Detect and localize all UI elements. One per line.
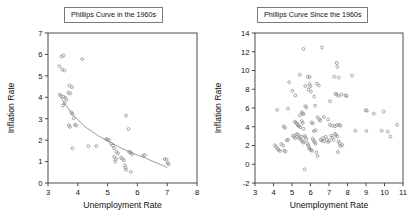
data-point <box>113 147 116 150</box>
data-point <box>303 168 306 171</box>
phillips-curve-figure: Phillips Curve in the 1960s 345678012345… <box>0 0 418 223</box>
data-point <box>81 58 84 61</box>
x-tick-label: 5 <box>105 188 109 197</box>
x-tick-label: 11 <box>399 188 407 197</box>
data-point <box>298 114 301 117</box>
y-axis-title: Inflation Rate <box>213 82 223 133</box>
data-point <box>389 135 392 138</box>
data-point <box>315 151 318 154</box>
data-points <box>58 54 170 173</box>
x-axis-title: Unemployment Rate <box>290 200 369 210</box>
y-tick-label: 3 <box>38 115 42 124</box>
y-tick-label: 0 <box>245 160 249 169</box>
x-tick-label: 10 <box>380 188 388 197</box>
y-tick-label: 12 <box>241 48 249 57</box>
x-tick-label: 4 <box>271 188 275 197</box>
y-tick-label: 6 <box>245 104 249 113</box>
y-tick-label: 5 <box>38 72 42 81</box>
y-tick-label: 14 <box>241 29 249 38</box>
y-tick-label: 1 <box>38 157 42 166</box>
data-point <box>129 170 132 173</box>
data-point <box>321 46 324 49</box>
data-point <box>380 129 383 132</box>
data-point <box>304 85 307 88</box>
x-tick-label: 3 <box>253 188 257 197</box>
y-tick-label: 2 <box>38 136 42 145</box>
data-point <box>87 145 90 148</box>
data-point <box>382 110 385 113</box>
x-tick-label: 6 <box>308 188 312 197</box>
x-tick-label: 7 <box>327 188 331 197</box>
data-point <box>314 104 317 107</box>
data-point <box>302 127 305 130</box>
y-tick-label: 6 <box>38 50 42 59</box>
data-point <box>125 114 128 117</box>
plot-area-left: 34567801234567Unemployment RateInflation… <box>0 0 209 223</box>
data-point <box>316 155 319 158</box>
data-point <box>308 76 311 79</box>
y-tick-label: 8 <box>245 85 249 94</box>
plot-area-right: 34567891011-202468101214Unemployment Rat… <box>209 0 418 223</box>
data-point <box>127 128 130 131</box>
y-tick-label: 2 <box>245 141 249 150</box>
x-tick-label: 8 <box>195 188 199 197</box>
data-point <box>335 62 338 65</box>
panel-phillips-1960s: Phillips Curve in the 1960s 345678012345… <box>0 0 209 223</box>
data-point <box>372 112 375 115</box>
plot-frame <box>255 33 403 183</box>
x-tick-label: 9 <box>364 188 368 197</box>
data-point <box>322 140 325 143</box>
data-point <box>340 93 343 96</box>
data-point <box>70 86 73 89</box>
data-point <box>95 145 98 148</box>
data-point <box>314 129 317 132</box>
data-point <box>72 117 75 120</box>
x-tick-label: 4 <box>76 188 80 197</box>
y-tick-label: 10 <box>241 66 249 75</box>
data-point <box>294 94 297 97</box>
data-point <box>328 100 331 103</box>
data-point <box>365 130 368 133</box>
x-tick-label: 8 <box>345 188 349 197</box>
y-tick-label: -2 <box>243 179 250 188</box>
data-point <box>351 74 354 77</box>
data-point <box>276 108 279 111</box>
data-point <box>336 65 339 68</box>
data-point <box>322 115 325 118</box>
data-point <box>396 123 399 126</box>
x-axis-title: Unemployment Rate <box>83 200 162 210</box>
data-point <box>337 76 340 79</box>
y-tick-label: 0 <box>38 179 42 188</box>
x-tick-label: 5 <box>290 188 294 197</box>
y-tick-label: 4 <box>245 123 249 132</box>
data-point <box>312 130 315 133</box>
y-axis-title: Inflation Rate <box>6 82 16 133</box>
y-tick-label: 4 <box>38 93 42 102</box>
data-point <box>336 151 339 154</box>
fitted-curve <box>61 98 167 167</box>
data-points <box>274 46 399 171</box>
data-point <box>309 90 312 93</box>
data-point <box>316 82 319 85</box>
y-tick-label: 7 <box>38 29 42 38</box>
data-point <box>298 73 301 76</box>
panel-phillips-since-1960s: Phillips Curve Since the 1960s 345678910… <box>209 0 418 223</box>
data-point <box>288 81 291 84</box>
data-point <box>313 95 316 98</box>
data-point <box>302 47 305 50</box>
data-point <box>333 75 336 78</box>
data-point <box>286 107 289 110</box>
x-tick-label: 7 <box>165 188 169 197</box>
data-point <box>58 65 61 68</box>
x-tick-label: 3 <box>46 188 50 197</box>
data-point <box>386 130 389 133</box>
data-point <box>61 104 64 107</box>
data-point <box>291 89 294 92</box>
data-point <box>327 118 330 121</box>
data-point <box>71 147 74 150</box>
x-tick-label: 6 <box>135 188 139 197</box>
data-point <box>354 129 357 132</box>
